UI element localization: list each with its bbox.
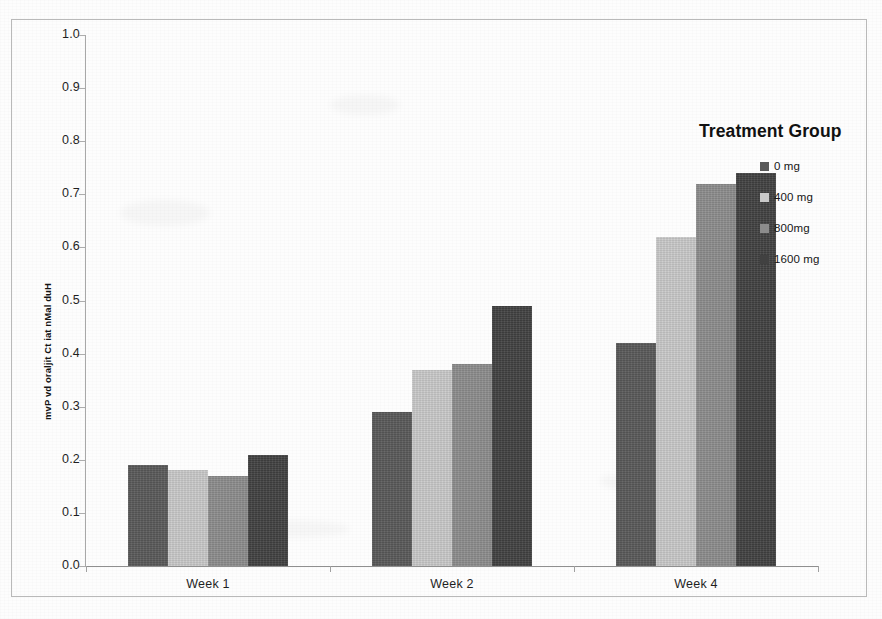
legend-item-800mg[interactable]: 800mg	[693, 221, 873, 235]
chart-legend: Treatment Group 0 mg400 mg800mg1600 mg	[693, 121, 873, 283]
bar-week-4-400-mg[interactable]	[656, 237, 696, 566]
legend-swatch-icon	[760, 224, 769, 233]
y-axis-tick-mark	[79, 301, 85, 302]
legend-item-1600-mg[interactable]: 1600 mg	[693, 252, 873, 266]
y-axis-tick-label: 0.8	[46, 133, 80, 147]
y-axis-tick-mark	[79, 194, 85, 195]
bar-week-2-1600-mg[interactable]	[492, 306, 532, 566]
y-axis-tick-label: 1.0	[46, 27, 80, 41]
legend-item-label: 800mg	[774, 222, 810, 234]
legend-swatch-icon	[760, 193, 769, 202]
y-axis-tick-mark	[79, 460, 85, 461]
y-axis-tick-label: 0.1	[46, 505, 80, 519]
y-axis-tick-label: 0.7	[46, 186, 80, 200]
bar-week-4-0-mg[interactable]	[616, 343, 656, 566]
y-axis-tick-label: 0.9	[46, 80, 80, 94]
y-axis-tick-mark	[79, 141, 85, 142]
bar-week-1-1600-mg[interactable]	[248, 455, 288, 567]
legend-item-list: 0 mg400 mg800mg1600 mg	[693, 159, 873, 266]
legend-item-label: 1600 mg	[774, 253, 819, 265]
x-axis-separator-tick	[330, 566, 331, 572]
bar-week-1-800mg[interactable]	[208, 476, 248, 566]
y-axis-tick-group: 1.00.90.80.70.60.50.40.30.20.10.0	[36, 0, 80, 619]
x-axis-end-tick	[818, 566, 819, 572]
y-axis-tick-mark	[79, 247, 85, 248]
y-axis-tick-mark	[79, 566, 85, 567]
legend-title: Treatment Group	[693, 121, 873, 142]
bar-week-1-0-mg[interactable]	[128, 465, 168, 566]
y-axis-tick-mark	[79, 407, 85, 408]
x-axis-line	[86, 566, 819, 567]
bar-week-2-0-mg[interactable]	[372, 412, 412, 566]
y-axis-tick-label: 0.3	[46, 399, 80, 413]
bar-week-1-400-mg[interactable]	[168, 470, 208, 566]
legend-item-label: 0 mg	[774, 160, 800, 172]
legend-item-label: 400 mg	[774, 191, 813, 203]
bar-week-2-400-mg[interactable]	[412, 370, 452, 566]
x-axis-separator-tick	[574, 566, 575, 572]
y-axis-tick-label: 0.4	[46, 346, 80, 360]
plot-area	[86, 35, 818, 566]
legend-swatch-icon	[760, 255, 769, 264]
grouped-bar-chart: mvP vd oraljit Ct iat nMal duH 1.00.90.8…	[0, 0, 882, 619]
x-axis-category-label-week-4: Week 4	[574, 577, 818, 591]
x-axis-category-label-week-2: Week 2	[330, 577, 574, 591]
y-axis-tick-label: 0.2	[46, 452, 80, 466]
x-axis-start-tick	[86, 566, 87, 572]
y-axis-tick-label: 0.0	[46, 558, 80, 572]
legend-item-0-mg[interactable]: 0 mg	[693, 159, 873, 173]
y-axis-tick-label: 0.6	[46, 239, 80, 253]
bar-week-2-800mg[interactable]	[452, 364, 492, 566]
y-axis-tick-mark	[79, 354, 85, 355]
y-axis-tick-mark	[79, 88, 85, 89]
y-axis-tick-label: 0.5	[46, 293, 80, 307]
legend-item-400-mg[interactable]: 400 mg	[693, 190, 873, 204]
y-axis-tick-mark	[79, 513, 85, 514]
x-axis-category-label-week-1: Week 1	[86, 577, 330, 591]
legend-swatch-icon	[760, 162, 769, 171]
y-axis-tick-mark	[79, 35, 85, 36]
